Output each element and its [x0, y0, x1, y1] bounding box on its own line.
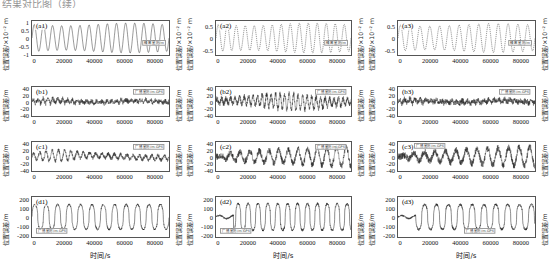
- y-tick-label: 0: [392, 214, 395, 221]
- panel-tag: (d1): [35, 198, 49, 206]
- y-axis-label-text: 位置误差/m: [1, 89, 10, 121]
- x-tick-label: 0: [32, 173, 35, 180]
- x-tick-label: 80000: [329, 239, 345, 246]
- x-tick-labels: 020000400006000080000: [31, 57, 170, 67]
- y-tick-label: 0: [392, 35, 395, 42]
- plot-series: [216, 21, 351, 55]
- y-axis-label-text: 位置误差/m: [367, 144, 376, 176]
- legend-box: 精密星历/m: [143, 40, 166, 46]
- y-axis-label-text: 位置误差/m: [367, 213, 376, 245]
- y-tick-label: 0.5: [21, 27, 29, 34]
- y-axis-label-text: 位置误差/m: [367, 89, 376, 121]
- y-axis-label-right-text: 位置误差/m: [540, 144, 549, 176]
- y-tick-label: -200: [201, 232, 213, 239]
- y-tick-labels: 40200-20-40: [194, 141, 214, 172]
- y-axis-label-right: 位置误差/m: [355, 133, 366, 188]
- plot-frame: (d1)广播星历/m-GPS: [31, 196, 170, 238]
- x-tick-labels: 020000400006000080000: [215, 57, 352, 67]
- y-axis-label-text: 位置误差/×10⁻² m: [185, 18, 194, 71]
- y-axis-label-right: 位置误差/m: [173, 133, 184, 188]
- chart-panel-c2: 位置误差/m位置误差/m(c2)广播星历/m-GPS40200-20-40020…: [184, 133, 366, 188]
- x-tick-label: 40000: [86, 239, 102, 246]
- panel-tag: (b2): [219, 88, 233, 96]
- y-tick-labels: 40200-20-40: [10, 141, 30, 172]
- x-tick-label: 0: [32, 118, 35, 125]
- x-tick-label: 40000: [86, 57, 102, 64]
- plot-frame: (d3)广播星历/m-GPS: [397, 196, 536, 238]
- panel-tag: (b1): [35, 88, 49, 96]
- legend-box: 广播星历/m-GPS: [36, 228, 68, 234]
- plot-frame: (a2)精密星历/m: [215, 20, 352, 56]
- x-tick-labels: 020000400006000080000: [31, 118, 170, 128]
- x-axis-label: 时间/s: [397, 250, 536, 260]
- x-tick-label: 40000: [269, 57, 285, 64]
- x-tick-label: 40000: [86, 118, 102, 125]
- y-tick-labels: 40200-20-40: [376, 141, 396, 172]
- y-tick-label: -200: [17, 232, 29, 239]
- y-axis-label-text: 位置误差/m: [1, 213, 10, 245]
- y-tick-label: -0.5: [385, 46, 395, 53]
- plot-frame: (b1)广播星历/m-GPS: [31, 86, 170, 117]
- x-tick-label: 60000: [117, 57, 133, 64]
- y-axis-label-right-text: 位置误差/m: [356, 89, 365, 121]
- y-tick-label: -40: [204, 112, 213, 119]
- y-axis-label-right: 位置误差/×10⁻² m: [173, 10, 184, 78]
- chart-panel-b2: 位置误差/m位置误差/m(b2)广播星历/m-GPS40200-20-40020…: [184, 78, 366, 133]
- x-tick-label: 80000: [147, 173, 163, 180]
- x-tick-label: 20000: [422, 173, 438, 180]
- legend-box: 广播星历/m-GPS: [315, 144, 347, 150]
- y-tick-labels: 2001000-100-200: [376, 196, 396, 238]
- x-tick-labels: 020000400006000080000: [31, 173, 170, 183]
- y-tick-label: 0: [26, 214, 29, 221]
- y-tick-label: 0.5: [205, 23, 213, 30]
- y-axis-label-right: 位置误差/m: [539, 188, 550, 270]
- x-tick-label: 80000: [513, 118, 529, 125]
- panel-tag: (c1): [35, 143, 48, 151]
- y-tick-label: -100: [17, 223, 29, 230]
- plot-series: [398, 21, 535, 55]
- x-tick-label: 80000: [147, 239, 163, 246]
- panel-tag: (a3): [401, 22, 414, 30]
- x-tick-label: 0: [32, 57, 35, 64]
- y-tick-label: -40: [20, 112, 29, 119]
- x-tick-label: 0: [398, 57, 401, 64]
- x-tick-label: 40000: [86, 173, 102, 180]
- x-tick-label: 20000: [422, 239, 438, 246]
- x-tick-label: 40000: [452, 173, 468, 180]
- chart-panel-d3: 位置误差/m位置误差/m(d3)广播星历/m-GPS2001000-100-20…: [366, 188, 550, 270]
- y-tick-labels: 0.50-0.5: [194, 20, 214, 56]
- panel-tag: (d3): [401, 198, 415, 206]
- y-axis-label-right: 位置误差/m: [355, 78, 366, 133]
- x-tick-labels: 020000400006000080000: [215, 173, 352, 183]
- plot-frame: (a1)精密星历/m: [31, 20, 170, 56]
- y-tick-label: 100: [19, 204, 29, 211]
- plot-frame: (d2)广播星历/m-GPS: [215, 196, 352, 238]
- plot-frame: (b2)广播星历/m-GPS: [215, 86, 352, 117]
- x-tick-label: 60000: [483, 118, 499, 125]
- x-tick-label: 40000: [269, 118, 285, 125]
- x-tick-labels: 020000400006000080000: [397, 239, 536, 249]
- y-tick-label: 0.5: [387, 23, 395, 30]
- x-tick-label: 60000: [483, 239, 499, 246]
- y-axis-label-right-text: 位置误差/×10⁻² m: [356, 18, 365, 71]
- y-axis-label-right-text: 位置误差/m: [540, 89, 549, 121]
- x-tick-label: 0: [216, 239, 219, 246]
- y-axis-label-right-text: 位置误差/m: [356, 213, 365, 245]
- y-tick-label: -40: [204, 167, 213, 174]
- x-tick-labels: 020000400006000080000: [397, 57, 536, 67]
- x-tick-label: 40000: [452, 118, 468, 125]
- y-axis-label-text: 位置误差/m: [185, 144, 194, 176]
- panel-tag: (b3): [401, 88, 415, 96]
- x-tick-label: 80000: [147, 118, 163, 125]
- panel-tag: (d2): [219, 198, 233, 206]
- y-axis-label-text: 位置误差/×10⁻² m: [367, 18, 376, 71]
- legend-box: 广播星历/m-GPS: [133, 144, 165, 150]
- x-axis-label: 时间/s: [215, 250, 352, 260]
- y-axis-label-right-text: 位置误差/m: [356, 144, 365, 176]
- x-tick-label: 80000: [329, 173, 345, 180]
- y-tick-label: -40: [20, 167, 29, 174]
- y-tick-label: -40: [386, 167, 395, 174]
- y-axis-label-right: 位置误差/×10⁻² m: [355, 10, 366, 78]
- x-tick-label: 20000: [240, 118, 256, 125]
- x-tick-labels: 020000400006000080000: [215, 239, 352, 249]
